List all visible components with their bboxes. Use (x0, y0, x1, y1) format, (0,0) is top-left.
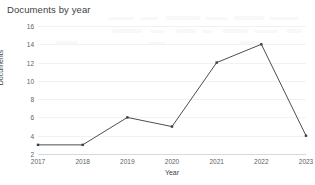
y-tick-label: 16 (8, 23, 34, 30)
y-tick-label: 10 (8, 77, 34, 84)
y-tick-label: 14 (8, 41, 34, 48)
x-axis-ticks: 2017 2018 2019 2020 2021 2022 2023 (38, 158, 306, 168)
data-series-line (38, 26, 306, 154)
x-tick-label: 2020 (165, 158, 179, 165)
x-tick-label: 2022 (254, 158, 268, 165)
chart-figure: Documents by year 16 14 12 10 8 6 4 2 Do… (0, 0, 315, 185)
data-point-marker (260, 43, 262, 45)
y-tick-label: 12 (8, 59, 34, 66)
data-point-marker (37, 144, 39, 146)
data-point-marker (215, 61, 217, 63)
data-point-marker (126, 116, 128, 118)
x-tick-label: 2019 (120, 158, 134, 165)
x-tick-label: 2021 (209, 158, 223, 165)
data-point-markers (37, 43, 307, 146)
y-axis-title: Documents (0, 50, 4, 85)
x-tick-label: 2023 (299, 158, 313, 165)
line-path (38, 44, 306, 145)
y-axis-ticks: 16 14 12 10 8 6 4 2 (0, 26, 34, 154)
x-axis-title: Year (38, 169, 306, 176)
data-point-marker (305, 135, 307, 137)
data-point-marker (81, 144, 83, 146)
plot-area (38, 26, 306, 154)
x-tick-label: 2018 (75, 158, 89, 165)
data-point-marker (171, 125, 173, 127)
y-tick-label: 8 (8, 96, 34, 103)
y-tick-label: 4 (8, 132, 34, 139)
y-tick-label: 2 (8, 151, 34, 158)
chart-title: Documents by year (7, 4, 91, 15)
x-axis-line (38, 154, 306, 155)
y-tick-label: 6 (8, 114, 34, 121)
x-tick-label: 2017 (31, 158, 45, 165)
